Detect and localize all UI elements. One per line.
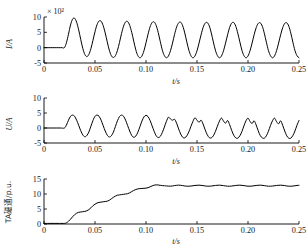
figure-three-panel-waveforms: 00.050.100.150.200.25 -50510 × 10² I/A t… [0,0,308,248]
x-tick-label: 0.25 [292,65,306,74]
series-line-secondary-current [44,115,299,138]
x-axis-label-2: t/s [172,157,180,166]
series-line-primary-current [44,18,299,58]
x-axis-label-1: t/s [172,77,180,86]
panel-primary-current: 00.050.100.150.200.25 -50510 × 10² I/A t… [0,0,308,86]
x-axis-label-3: t/s [172,237,180,246]
series-line-ta-flux [44,185,299,224]
x-tick-label: 0.05 [88,145,102,154]
x-tick-label: 0.20 [241,226,255,235]
y-tick-label: 0 [37,44,41,53]
x-tick-label: 0.15 [190,226,204,235]
panel-ta-flux: 00.050.100.150.200.25 051015 TA磁通/p.u. t… [0,168,308,248]
y-tick-labels-3: 051015 [33,175,41,229]
y-tick-label: -5 [34,139,41,148]
plot-ta-flux: 00.050.100.150.200.25 051015 TA磁通/p.u. t… [0,168,308,248]
x-tick-label: 0.15 [190,145,204,154]
y-tick-labels-1: -50510 [33,13,41,68]
y-tick-label: -5 [34,59,41,68]
x-tick-label: 0.25 [292,145,306,154]
x-tick-labels-1: 00.050.100.150.200.25 [42,65,306,74]
y-tick-label: 15 [33,175,41,184]
y-axis-multiplier-1: × 10² [47,7,65,16]
y-tick-label: 5 [37,109,41,118]
y-tick-label: 10 [33,94,41,103]
x-tick-label: 0.20 [241,65,255,74]
y-tick-label: 5 [37,205,41,214]
x-tick-label: 0 [42,65,46,74]
x-tick-label: 0 [42,145,46,154]
y-axis-label-3: TA磁通/p.u. [3,181,13,224]
plot-primary-current: 00.050.100.150.200.25 -50510 × 10² I/A t… [0,0,308,86]
x-tick-labels-3: 00.050.100.150.200.25 [42,226,306,235]
x-tick-label: 0.10 [139,145,153,154]
x-tick-label: 0.05 [88,226,102,235]
x-tick-label: 0 [42,226,46,235]
panel-secondary-current: 00.050.100.150.200.25 -50510 U/A t/s [0,86,308,168]
y-tick-label: 5 [37,28,41,37]
x-tick-label: 0.20 [241,145,255,154]
y-tick-label: 0 [37,124,41,133]
y-tick-label: 10 [33,13,41,22]
x-tick-label: 0.15 [190,65,204,74]
y-tick-label: 10 [33,190,41,199]
y-axis-label-2: U/A [5,116,14,130]
y-tick-labels-2: -50510 [33,94,41,148]
x-tick-label: 0.10 [139,226,153,235]
x-tick-label: 0.05 [88,65,102,74]
x-tick-label: 0.10 [139,65,153,74]
plot-secondary-current: 00.050.100.150.200.25 -50510 U/A t/s [0,86,308,168]
y-tick-label: 0 [37,220,41,229]
x-tick-labels-2: 00.050.100.150.200.25 [42,145,306,154]
x-tick-label: 0.25 [292,226,306,235]
y-axis-label-1: I/A [5,38,14,50]
